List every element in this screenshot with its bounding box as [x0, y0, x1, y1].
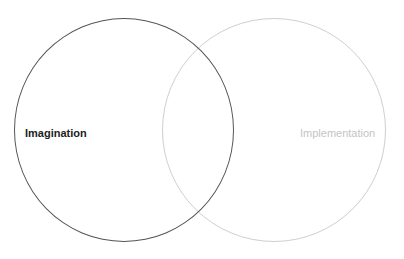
venn-diagram: Imagination Implementation: [0, 0, 404, 259]
imagination-label: Imagination: [25, 127, 87, 140]
implementation-label: Implementation: [300, 127, 375, 140]
